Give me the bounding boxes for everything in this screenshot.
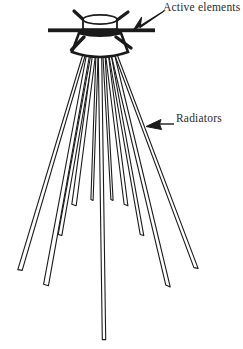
feed-cylinder-rim xyxy=(83,15,117,24)
radiator-rod xyxy=(18,55,86,270)
label-radiators: Radiators xyxy=(176,112,222,124)
arrow-left-icon xyxy=(146,120,174,130)
bar-body-shadow xyxy=(80,28,121,37)
horizontal-bar xyxy=(48,28,155,37)
arrow-down-left-icon xyxy=(134,11,165,30)
label-active-elements: Active elements xyxy=(163,1,240,13)
antenna-drawing xyxy=(0,0,243,349)
arrow-left-head xyxy=(146,120,162,130)
figure-canvas: Active elements Radiators xyxy=(0,0,243,349)
radiator-rod-center-mast xyxy=(98,55,105,340)
radiator-rod-fan xyxy=(18,55,198,340)
